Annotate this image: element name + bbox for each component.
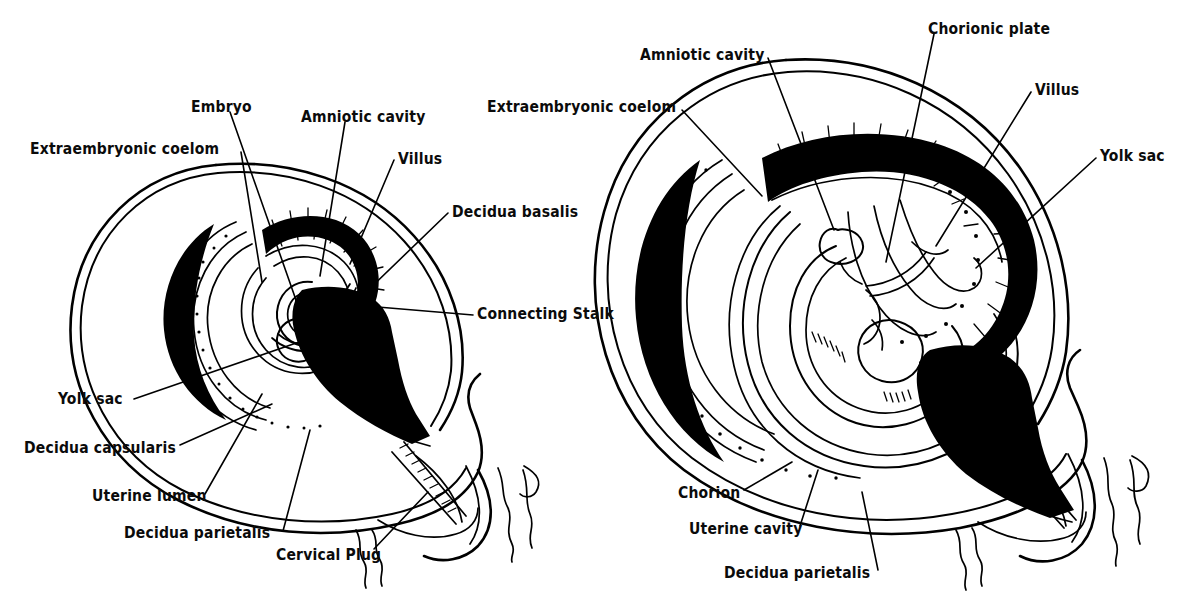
right-panel-artwork <box>595 34 1149 590</box>
label-right-extraembryonic-coelom: Extraembryonic coelom <box>487 100 676 116</box>
right-decidua-parietalis-mass <box>917 345 1074 518</box>
label-left-embryo: Embryo <box>191 100 252 116</box>
left-cervix-wavy-right <box>498 468 513 562</box>
right-villus-vessel-loops <box>848 200 982 336</box>
right-fetus-shading <box>812 332 911 402</box>
right-cervix-wavy-left2 <box>956 530 966 590</box>
label-right-chorion: Chorion <box>678 486 740 502</box>
left-cervix-outer <box>424 470 491 560</box>
right-yolk-sac <box>858 320 923 382</box>
label-left-decidua-basalis: Decidua basalis <box>452 205 578 221</box>
right-lower-uterine-curve <box>978 512 1086 541</box>
label-left-extraembryonic-coelom: Extraembryonic coelom <box>30 142 219 158</box>
label-left-amniotic-cavity: Amniotic cavity <box>301 110 425 126</box>
label-right-decidua-parietalis: Decidua parietalis <box>724 566 870 582</box>
label-right-yolk-sac: Yolk sac <box>1100 149 1165 165</box>
left-uterus-outer-wall <box>71 165 482 533</box>
label-right-chorionic-plate: Chorionic plate <box>928 22 1050 38</box>
right-fetal-limb-upper <box>864 290 880 344</box>
right-fetal-head <box>820 229 863 264</box>
leader-left-cervical-plug <box>374 492 428 549</box>
left-cervix-wavy-outer <box>523 470 532 548</box>
label-left-cervical-plug: Cervical Plug <box>276 548 381 564</box>
label-left-connecting-stalk: Connecting Stalk <box>477 307 614 323</box>
right-cervix-wavy-left <box>972 528 982 586</box>
left-internal-os-curve <box>416 456 462 522</box>
leader-left-decidua-parietalis <box>283 430 310 531</box>
leader-left-decidua-capsularis <box>180 404 272 445</box>
leader-right-extraembryonic-coelom <box>682 110 762 196</box>
leader-left-embryo <box>230 112 296 300</box>
left-cervix-canal-right <box>466 466 479 544</box>
label-left-decidua-capsularis: Decidua capsularis <box>24 441 176 457</box>
figure-root: Extraembryonic coelom Embryo Amniotic ca… <box>0 0 1197 612</box>
label-left-uterine-lumen: Uterine lumen <box>92 489 207 505</box>
label-left-decidua-parietalis: Decidua parietalis <box>124 526 270 542</box>
label-right-uterine-cavity: Uterine cavity <box>689 522 802 538</box>
leader-right-chorion <box>744 462 792 490</box>
label-left-villus: Villus <box>398 152 442 168</box>
right-placenta-villous-mass <box>762 134 1037 380</box>
label-right-amniotic-cavity: Amniotic cavity <box>640 48 764 64</box>
right-cervix-wavy-right <box>1104 458 1117 566</box>
label-left-yolk-sac: Yolk sac <box>58 392 123 408</box>
left-panel-artwork <box>71 112 539 588</box>
leader-right-uterine-cavity <box>800 470 818 526</box>
leader-right-decidua-parietalis <box>862 492 878 570</box>
right-chorion-crescent <box>635 160 724 462</box>
label-right-villus: Villus <box>1035 83 1079 99</box>
right-cervix-wavy-outer <box>1130 460 1140 544</box>
